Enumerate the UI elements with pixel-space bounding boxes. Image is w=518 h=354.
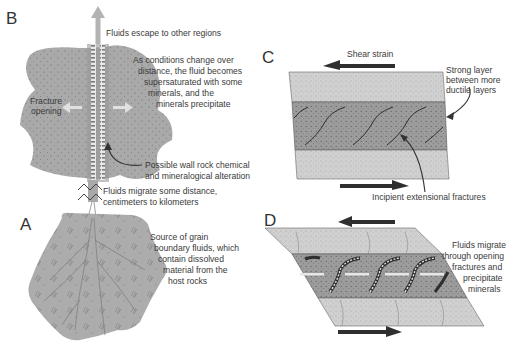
label-migrate-1: Fluids migrate some distance, (103, 186, 217, 196)
label-source-1: Source of grain (150, 232, 209, 242)
panel-c: C Shear strain Strong layer between more… (262, 48, 501, 202)
vein-right (100, 44, 105, 180)
label-d-4: precipitate (463, 273, 503, 283)
panel-a-letter: A (20, 215, 32, 234)
label-source-3: contain dissolved (158, 254, 224, 264)
label-alteration-2: and mineralogical alteration (145, 171, 250, 181)
panel-b-letter: B (6, 9, 17, 28)
label-source-4: material from the (163, 265, 228, 275)
panel-d-letter: D (264, 211, 276, 230)
label-incipient: Incipient extensional fractures (372, 192, 486, 202)
label-d-1: Fluids migrate (452, 240, 506, 250)
label-source-2: boundary fluids, which (154, 243, 239, 253)
label-shear-strain: Shear strain (347, 49, 394, 59)
panel-a-rock-body (28, 213, 166, 340)
fluid-escape-arrow-icon (91, 6, 105, 44)
label-d-2: through opening (442, 251, 504, 261)
label-strong-3: ductile layers (446, 85, 496, 95)
alteration-zone (87, 44, 109, 182)
label-supersat-2: distance, the fluid becomes (138, 66, 242, 76)
label-strong-1: Strong layer (446, 65, 492, 75)
label-supersat-1: As conditions change over (133, 55, 234, 65)
label-migrate-2: centimeters to kilometers (103, 197, 199, 207)
panel-c-letter: C (262, 48, 274, 67)
label-source-5: host rocks (168, 276, 207, 286)
label-fracture-1: Fracture (30, 96, 62, 106)
d-upper-layer (265, 228, 442, 254)
shear-arrow-bottom-icon (340, 180, 409, 190)
label-d-3: fractures and (452, 262, 502, 272)
strong-layer (292, 102, 447, 150)
panel-d: D (264, 211, 506, 337)
panel-a: A Source of grain boundary fluids, which… (20, 213, 239, 340)
label-supersat-4: minerals, and the (148, 88, 214, 98)
vein-left (91, 44, 96, 180)
panel-b: B Fluids escape to other regions As cond… (6, 6, 250, 182)
shear-arrow-top-icon (323, 60, 395, 70)
label-fracture-2: opening (31, 106, 62, 116)
shear-arrow-bottom-d-icon (338, 326, 402, 337)
label-alteration-1: Possible wall rock chemical (145, 160, 250, 170)
label-d-5: minerals (468, 284, 500, 294)
label-fluids-escape: Fluids escape to other regions (106, 28, 221, 38)
lower-ductile-layer (295, 150, 449, 179)
diagram-canvas: B Fluids escape to other regions As cond… (0, 0, 518, 354)
label-strong-2: between more (446, 75, 501, 85)
label-supersat-5: minerals precipitate (156, 99, 231, 109)
migration-connector: Fluids migrate some distance, centimeter… (78, 180, 217, 218)
label-supersat-3: supersaturated with some (144, 77, 243, 87)
upper-ductile-layer (289, 72, 445, 102)
shear-arrow-top-d-icon (345, 220, 395, 224)
